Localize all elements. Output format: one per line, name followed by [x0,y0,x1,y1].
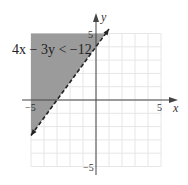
y-tick-label: −5 [83,162,94,173]
x-axis-label: x [172,101,179,115]
inequality-label: 4x − 3y < −12 [12,42,92,57]
y-tick-label: 5 [88,29,93,40]
inequality-chart: x y −555−5 4x − 3y < −12 [0,0,188,185]
x-tick-label: 5 [157,102,162,113]
x-tick-label: −5 [25,102,36,113]
y-axis-arrow-icon [93,13,99,22]
y-axis-label: y [100,10,107,24]
